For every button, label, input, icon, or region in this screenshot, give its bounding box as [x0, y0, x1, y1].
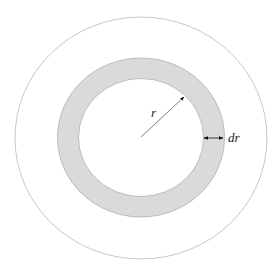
- radius-arrow: [141, 97, 184, 137]
- annulus-diagram: r dr: [0, 0, 276, 269]
- annular-ring: [58, 58, 225, 217]
- diagram-svg: r dr: [0, 0, 276, 269]
- thickness-label: dr: [228, 130, 241, 145]
- radius-label: r: [151, 105, 157, 120]
